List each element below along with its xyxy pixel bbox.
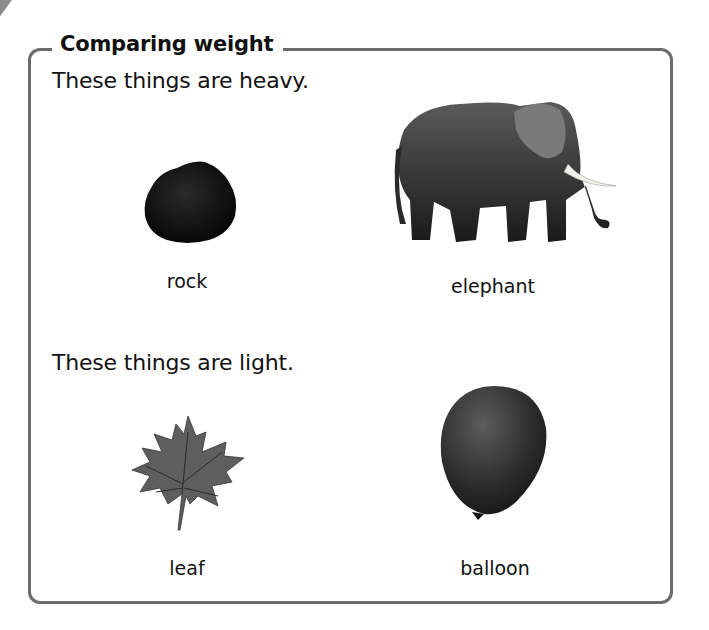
section-title: Comparing weight xyxy=(60,32,273,56)
balloon-label: balloon xyxy=(415,557,575,579)
rock-label: rock xyxy=(107,270,267,292)
leaf-icon xyxy=(128,412,248,532)
balloon-icon xyxy=(438,384,550,526)
leaf-label: leaf xyxy=(107,557,267,579)
rock-icon xyxy=(143,158,239,246)
elephant-label: elephant xyxy=(413,275,573,297)
page-corner-tab xyxy=(0,0,12,30)
section-title-wrap: Comparing weight xyxy=(52,32,283,56)
light-heading: These things are light. xyxy=(52,350,294,375)
heavy-heading: These things are heavy. xyxy=(52,68,309,93)
elephant-icon xyxy=(390,90,622,250)
